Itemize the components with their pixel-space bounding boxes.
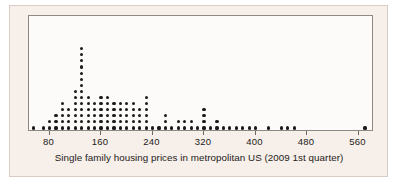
data-dot [202, 114, 205, 117]
data-dot [112, 102, 115, 105]
data-dot [125, 114, 128, 117]
data-dot [87, 96, 90, 99]
data-dot [112, 120, 115, 123]
data-dot [99, 114, 102, 117]
data-dot [80, 53, 83, 56]
data-dot [99, 102, 102, 105]
data-dot [48, 120, 51, 123]
data-dot [80, 108, 83, 111]
data-dot [106, 96, 109, 99]
data-dot [106, 108, 109, 111]
x-axis-tick [306, 131, 307, 135]
data-dot [54, 120, 57, 123]
data-dot [87, 120, 90, 123]
data-dot [61, 114, 64, 117]
data-dot [202, 108, 205, 111]
data-dot [80, 102, 83, 105]
figure-caption: Single family housing prices in metropol… [0, 152, 398, 163]
x-axis-tick-label: 80 [43, 136, 54, 147]
data-dot [119, 120, 122, 123]
data-dot [164, 120, 167, 123]
data-dot [67, 114, 70, 117]
x-axis-line [28, 130, 373, 131]
data-dot [138, 114, 141, 117]
data-dot [132, 102, 135, 105]
data-dot [202, 120, 205, 123]
data-dot [93, 120, 96, 123]
x-axis-tick-label: 240 [143, 136, 159, 147]
data-dot [125, 102, 128, 105]
data-dot [74, 114, 77, 117]
data-dot [67, 108, 70, 111]
dotplot-figure: 80160240320400480560 Single family housi… [0, 0, 398, 184]
data-dot [80, 84, 83, 87]
data-dot [132, 114, 135, 117]
data-dot [164, 114, 167, 117]
x-axis-tick-label: 160 [92, 136, 108, 147]
x-axis-tick [255, 131, 256, 135]
data-dot [99, 96, 102, 99]
x-axis-tick [152, 131, 153, 135]
data-dot [145, 96, 148, 99]
data-dot [125, 120, 128, 123]
data-dot [61, 102, 64, 105]
data-dot [80, 72, 83, 75]
data-dot [93, 102, 96, 105]
data-dot [132, 120, 135, 123]
data-dot [138, 120, 141, 123]
data-dot [80, 120, 83, 123]
data-dot [93, 108, 96, 111]
data-dot [119, 102, 122, 105]
data-dot [125, 108, 128, 111]
data-dot [215, 120, 218, 123]
x-axis-tick-label: 400 [246, 136, 262, 147]
data-dot [106, 102, 109, 105]
data-dot [112, 108, 115, 111]
data-dot [145, 120, 148, 123]
data-dot [112, 114, 115, 117]
data-dot [74, 90, 77, 93]
data-dot [74, 108, 77, 111]
data-dot [138, 108, 141, 111]
data-dot [74, 120, 77, 123]
data-dot [87, 102, 90, 105]
data-dot [93, 114, 96, 117]
data-dot [106, 120, 109, 123]
data-dot [119, 114, 122, 117]
data-dot [67, 120, 70, 123]
data-dot [99, 120, 102, 123]
data-dot [54, 114, 57, 117]
data-dot [177, 120, 180, 123]
data-dot [80, 65, 83, 68]
data-dot [190, 120, 193, 123]
data-dot [145, 114, 148, 117]
data-dot [99, 108, 102, 111]
data-dot [80, 96, 83, 99]
x-axis-tick-label: 480 [298, 136, 314, 147]
data-dot [80, 59, 83, 62]
data-dot [61, 120, 64, 123]
data-dot [132, 108, 135, 111]
x-axis-tick-label: 320 [195, 136, 211, 147]
data-dot [183, 120, 186, 123]
data-dot [61, 108, 64, 111]
data-dot [119, 108, 122, 111]
x-axis-tick-label: 560 [349, 136, 365, 147]
x-axis-tick [358, 131, 359, 135]
data-dot [74, 102, 77, 105]
data-dot [80, 90, 83, 93]
data-dot [145, 102, 148, 105]
data-dot [74, 96, 77, 99]
data-dot [106, 114, 109, 117]
x-axis-tick [100, 131, 101, 135]
data-dot [145, 108, 148, 111]
plot-frame [28, 15, 373, 131]
dot-plot-canvas [29, 16, 372, 130]
data-dot [80, 78, 83, 81]
x-axis-tick [203, 131, 204, 135]
data-dot [80, 114, 83, 117]
data-dot [80, 47, 83, 50]
x-axis-tick [49, 131, 50, 135]
data-dot [87, 114, 90, 117]
data-dot [87, 108, 90, 111]
